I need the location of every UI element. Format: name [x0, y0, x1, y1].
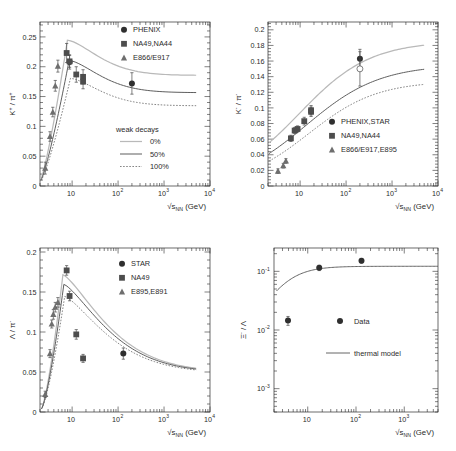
legend-experiments: PHENIXNA49,NA44E866/E917	[121, 25, 172, 62]
y-axis-label: K- / π-	[233, 93, 243, 114]
series-na49-na44	[288, 106, 314, 142]
x-axis-label: √sNN (GeV)	[167, 202, 206, 212]
data-point	[119, 261, 125, 267]
data-point	[288, 135, 294, 141]
y-axis-tick-labels: 00.050.10.150.20.25	[23, 33, 37, 191]
data-point	[120, 351, 126, 357]
svg-text:10: 10	[67, 415, 75, 424]
panel-xi-lambda: 1010210310-110-210-3Ξ- / Λ√sNN (GeV)Data…	[228, 226, 456, 451]
panel-kplus-piplus: 1010210310400.050.10.150.20.25K+ / π+√sN…	[0, 0, 228, 225]
svg-text:104: 104	[432, 187, 443, 197]
data-point	[64, 268, 70, 274]
legend-label: thermal model	[354, 349, 401, 358]
data-point	[329, 133, 335, 139]
svg-text:0.06: 0.06	[251, 135, 265, 144]
data-point	[73, 332, 79, 338]
curve-0-percent	[41, 40, 196, 179]
x-axis-label: √sNN (GeV)	[395, 428, 434, 438]
svg-text:10-1: 10-1	[257, 266, 270, 276]
legend-label: E895,E891	[131, 287, 168, 296]
legend-label: 0%	[150, 137, 161, 146]
svg-text:0.2: 0.2	[27, 248, 37, 257]
data-point	[67, 58, 73, 64]
data-point	[129, 80, 135, 86]
data-point	[329, 147, 335, 153]
x-axis-tick-labels: 10102103104	[67, 413, 215, 423]
legend-experiments: STARNA49E895,E891	[119, 259, 168, 296]
svg-text:0.15: 0.15	[23, 288, 37, 297]
svg-text:0.1: 0.1	[255, 104, 265, 113]
series-e866-e917	[42, 60, 61, 174]
legend-label: E866/E917	[133, 53, 170, 62]
svg-text:0.15: 0.15	[23, 92, 37, 101]
svg-text:104: 104	[204, 413, 215, 423]
data-point	[285, 318, 291, 324]
legend-label: Data	[354, 317, 371, 326]
legend-weak-decays: weak decays0%50%100%	[115, 125, 169, 171]
svg-text:102: 102	[112, 187, 123, 197]
x-axis-label: √sNN (GeV)	[395, 202, 434, 212]
curve-thermal-model	[276, 266, 438, 291]
data-point	[121, 55, 127, 61]
data-point	[52, 83, 58, 89]
x-axis-tick-labels: 10102103104	[295, 187, 443, 197]
svg-text:102: 102	[112, 413, 123, 423]
curve-0-percent	[41, 275, 196, 409]
legend-experiments: PHENIX,STARNA49,NA44E866/E917,E895	[329, 117, 397, 154]
x-axis-tick-labels: 10102103104	[67, 187, 215, 197]
data-point	[119, 275, 125, 281]
data-point	[80, 79, 86, 85]
model-curves	[41, 40, 196, 180]
svg-text:0: 0	[261, 182, 265, 191]
legend-label: E866/E917,E895	[341, 145, 397, 154]
legend-title: weak decays	[115, 125, 159, 134]
svg-text:103: 103	[158, 413, 169, 423]
x-axis-tick-labels: 10102103	[303, 413, 410, 423]
svg-text:10: 10	[295, 189, 303, 198]
curve-50-percent	[41, 284, 196, 408]
plot-frame	[274, 248, 438, 412]
svg-text:10-3: 10-3	[257, 383, 270, 393]
y-axis-label: Ξ- / Λ	[238, 320, 248, 339]
data-point	[42, 391, 48, 397]
series-na49	[64, 266, 86, 363]
data-point	[283, 158, 289, 164]
svg-text:0.04: 0.04	[251, 150, 265, 159]
x-axis-ticks	[274, 248, 438, 412]
data-point	[80, 356, 86, 362]
legend-label: 100%	[150, 162, 169, 171]
data-point	[55, 63, 61, 69]
panel-kminus-piminus: 1010210310400.020.040.060.080.10.120.140…	[228, 0, 456, 225]
svg-text:0.1: 0.1	[27, 328, 37, 337]
series-star	[120, 348, 126, 359]
svg-text:103: 103	[158, 187, 169, 197]
svg-text:0.18: 0.18	[251, 41, 265, 50]
data-point	[301, 118, 307, 124]
svg-text:0: 0	[33, 182, 37, 191]
svg-text:10: 10	[303, 415, 311, 424]
y-axis-tick-labels: 10-110-210-3	[257, 266, 270, 394]
y-axis-label: Λ / π-	[7, 321, 17, 340]
data-point	[357, 66, 363, 72]
data-point	[358, 258, 364, 264]
data-series-group	[275, 49, 363, 173]
data-point	[67, 293, 73, 299]
y-axis-label: K+ / π+	[7, 92, 17, 115]
figure-grid: 1010210310400.050.10.150.20.25K+ / π+√sN…	[0, 0, 456, 451]
data-point	[337, 318, 343, 324]
svg-text:10: 10	[67, 189, 75, 198]
legend-label: PHENIX,STAR	[341, 117, 390, 126]
svg-text:0.12: 0.12	[251, 88, 265, 97]
y-axis-ticks	[274, 254, 438, 412]
data-point	[73, 72, 79, 78]
svg-text:104: 104	[204, 187, 215, 197]
svg-text:√sNN (GeV): √sNN (GeV)	[395, 428, 434, 438]
data-point	[121, 41, 127, 47]
model-curves	[41, 275, 196, 409]
data-point	[316, 265, 322, 271]
svg-text:103: 103	[386, 187, 397, 197]
data-point	[119, 289, 125, 295]
data-point	[329, 119, 335, 125]
x-axis-label: √sNN (GeV)	[167, 428, 206, 438]
legend-label: PHENIX	[133, 25, 161, 34]
